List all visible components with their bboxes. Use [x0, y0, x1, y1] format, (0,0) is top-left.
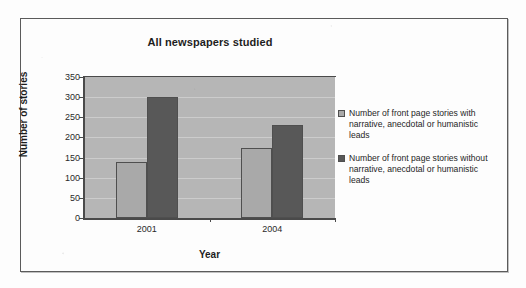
- y-tick-mark: [79, 198, 83, 199]
- legend-item-label: Number of front page stories with narrat…: [349, 108, 500, 142]
- x-tick-label: 2001: [117, 224, 177, 234]
- gridline: [84, 97, 335, 98]
- chart-legend: Number of front page stories with narrat…: [338, 108, 500, 197]
- bar-2004-series-2: [272, 125, 303, 218]
- plot-top-border: [83, 76, 336, 77]
- y-tick-mark: [79, 137, 83, 138]
- scanned-page: All newspapers studied 05010015020025030…: [0, 0, 526, 288]
- y-tick-mark: [79, 97, 83, 98]
- bar-2004-series-1: [241, 148, 272, 219]
- x-tick-label: 2004: [242, 224, 302, 234]
- x-tick-mark: [335, 218, 336, 222]
- y-tick-mark: [79, 178, 83, 179]
- y-axis-title: Number of stories: [18, 60, 29, 170]
- legend-item-label: Number of front page stories without nar…: [349, 153, 500, 187]
- legend-item[interactable]: Number of front page stories with narrat…: [338, 108, 500, 142]
- y-tick-label: 200: [52, 132, 80, 142]
- y-tick-mark: [79, 158, 83, 159]
- y-axis-line: [83, 76, 85, 219]
- y-tick-label: 300: [52, 92, 80, 102]
- y-tick-label: 0: [52, 213, 80, 223]
- y-tick-label: 50: [52, 193, 80, 203]
- y-tick-label: 350: [52, 72, 80, 82]
- y-tick-label: 250: [52, 112, 80, 122]
- chart-title: All newspapers studied: [84, 36, 336, 48]
- x-axis-title: Year: [84, 249, 335, 260]
- series-2-swatch-icon: [338, 155, 345, 162]
- y-tick-label: 150: [52, 153, 80, 163]
- y-tick-mark: [79, 77, 83, 78]
- bar-2001-series-2: [147, 97, 178, 218]
- legend-item[interactable]: Number of front page stories without nar…: [338, 153, 500, 187]
- y-tick-mark: [79, 218, 83, 219]
- y-tick-mark: [79, 117, 83, 118]
- series-1-swatch-icon: [338, 110, 345, 117]
- bar-2001-series-1: [116, 162, 147, 218]
- x-tick-mark: [210, 218, 211, 222]
- y-tick-label: 100: [52, 173, 80, 183]
- gridline: [84, 117, 335, 118]
